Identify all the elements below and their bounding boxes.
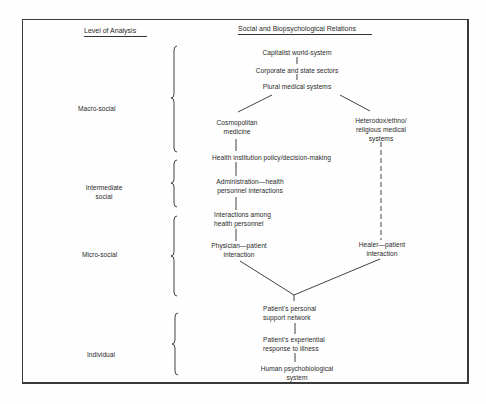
node-interactions-among-personnel: Interactions among health personnel: [214, 210, 271, 228]
node-corporate-state-sectors: Corporate and state sectors: [240, 66, 354, 75]
node-text: Human psychobiological: [255, 364, 339, 373]
level-intermediate-line2: social: [84, 192, 124, 201]
node-text: Patient's personal: [263, 304, 316, 313]
node-text: Capitalist world-system: [247, 48, 347, 57]
relations-header: Social and Biopsychological Relations: [238, 24, 372, 35]
node-healer-patient-interaction: Healer—patient interaction: [352, 240, 412, 258]
node-administration-health-personnel: Administration—health personnel interact…: [211, 177, 289, 195]
node-human-psychobiological-system: Human psychobiological system: [255, 364, 339, 382]
brace-intermediate: [171, 160, 177, 207]
node-heterodox-systems: Heterodox/ethno/ religious medical syste…: [346, 116, 416, 143]
node-text: Healer—patient: [352, 240, 412, 249]
brace-micro: [171, 216, 177, 296]
node-text: Plural medical systems: [247, 82, 347, 91]
edge-plural-heterodox: [340, 95, 370, 111]
level-intermediate-social: Intermediate social: [84, 183, 124, 201]
node-text: Patient's experiential: [263, 335, 325, 344]
node-text: support network: [263, 313, 316, 322]
level-intermediate-line1: Intermediate: [84, 183, 124, 192]
node-health-institution-policy: Health institution policy/decision-makin…: [212, 153, 331, 162]
node-text: systems: [346, 134, 416, 143]
node-text: Heterodox/ethno/: [346, 116, 416, 125]
node-text: Corporate and state sectors: [240, 66, 354, 75]
level-of-analysis-header: Level of Analysis: [84, 26, 147, 37]
level-individual: Individual: [87, 350, 115, 359]
node-text: Health institution policy/decision-makin…: [212, 153, 331, 162]
node-text: system: [255, 373, 339, 382]
node-text: Administration—health: [211, 177, 289, 186]
node-text: health personnel: [214, 219, 271, 228]
edge-physician-support: [240, 261, 294, 295]
node-cosmopolitan-medicine: Cosmopolitan medicine: [207, 118, 267, 136]
node-text: Cosmopolitan: [207, 118, 267, 127]
node-physician-patient-interaction: Physician—patient interaction: [206, 241, 272, 259]
level-macro-social: Macro-social: [78, 104, 115, 113]
node-text: interaction: [206, 250, 272, 259]
level-micro-social: Micro-social: [82, 250, 117, 259]
node-text: interaction: [352, 249, 412, 258]
brace-individual: [172, 313, 178, 375]
diagram-lines: [0, 0, 486, 404]
node-text: medicine: [207, 127, 267, 136]
node-text: personnel interactions: [211, 186, 289, 195]
brace-macro: [171, 46, 177, 152]
node-patient-support-network: Patient's personal support network: [263, 304, 316, 322]
edge-healer-support: [294, 259, 380, 295]
node-text: religious medical: [346, 125, 416, 134]
node-text: Physician—patient: [206, 241, 272, 250]
node-capitalist-world-system: Capitalist world-system: [247, 48, 347, 57]
edge-plural-cosmopolitan: [238, 95, 272, 112]
node-plural-medical-systems: Plural medical systems: [247, 82, 347, 91]
node-text: Interactions among: [214, 210, 271, 219]
node-patient-experiential-response: Patient's experiential response to illne…: [263, 335, 325, 353]
node-text: response to illness: [263, 344, 325, 353]
